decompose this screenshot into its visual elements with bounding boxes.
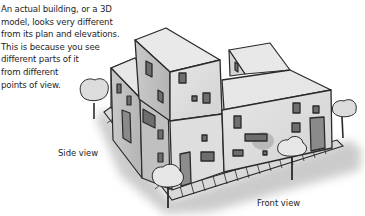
front-view-label: Front view (257, 198, 300, 208)
side-door (122, 110, 131, 143)
tree-right (332, 100, 356, 138)
building-illustration (0, 0, 365, 216)
side-view-label: Side view (58, 148, 98, 158)
right-door (310, 117, 325, 151)
